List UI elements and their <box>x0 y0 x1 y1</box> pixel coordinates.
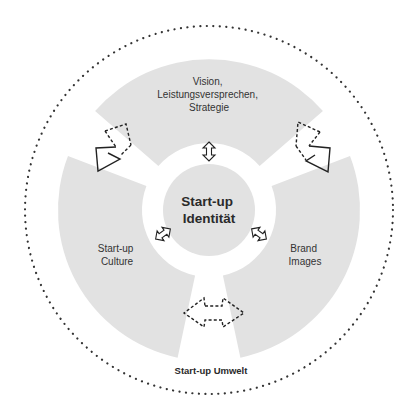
identity-diagram: Vision, Leistungsversprechen, Strategie … <box>0 0 418 406</box>
arrow-center-top-icon <box>203 142 215 161</box>
environment-label: Start-up Umwelt <box>175 365 249 376</box>
center-circle <box>163 164 255 256</box>
